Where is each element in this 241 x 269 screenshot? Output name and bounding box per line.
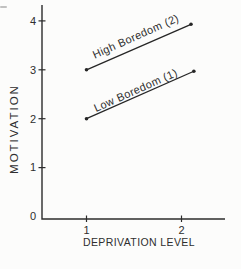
y-tick-label: 3	[30, 64, 36, 76]
x-axis-title: DEPRIVATION LEVEL	[74, 236, 204, 248]
y-tick-label: 2	[30, 113, 36, 125]
interaction-line-chart: 0123412 MOTIVATION DEPRIVATION LEVEL Hig…	[0, 0, 241, 269]
data-point	[189, 23, 193, 27]
data-point	[85, 68, 89, 72]
y-axis-title: MOTIVATION	[8, 74, 20, 184]
x-tick-label: 2	[178, 224, 184, 236]
data-point	[85, 117, 89, 121]
x-tick-label: 1	[83, 224, 89, 236]
y-tick-label: 1	[30, 161, 36, 173]
data-point	[192, 69, 196, 73]
y-tick-label: 4	[30, 15, 36, 27]
scan-artifact-mark	[0, 6, 7, 8]
y-tick-label: 0	[30, 210, 36, 222]
